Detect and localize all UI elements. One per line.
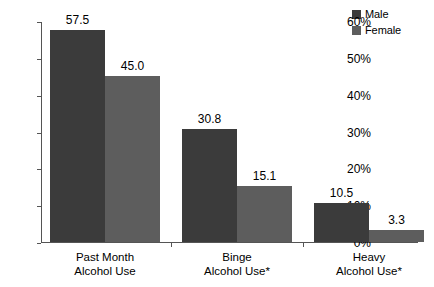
category-label-line: Alcohol Use (50, 264, 160, 278)
y-axis-tick (37, 206, 41, 207)
y-axis-tick-label: 50% (347, 53, 371, 65)
bar-value-label: 45.0 (105, 60, 160, 72)
y-axis-tick (37, 169, 41, 170)
category-label-0: Past MonthAlcohol Use (50, 250, 160, 278)
y-axis-tick-label: 20% (347, 163, 371, 175)
category-label-2: HeavyAlcohol Use* (314, 250, 424, 278)
x-axis-tick (303, 243, 304, 247)
y-axis-tick-label: 40% (347, 90, 371, 102)
bar-value-label: 57.5 (50, 14, 105, 26)
bar-chart: Male Female 60%50%40%30%20%10%0% 57.545.… (0, 0, 434, 287)
bar-value-label: 15.1 (237, 170, 292, 182)
bar-female-2[interactable] (369, 230, 424, 242)
category-label-line: Binge (182, 250, 292, 264)
bar-male-1[interactable] (182, 129, 237, 242)
bar-value-label: 3.3 (369, 214, 424, 226)
x-axis-tick (171, 243, 172, 247)
bar-male-0[interactable] (50, 30, 105, 242)
category-label-line: Alcohol Use* (314, 264, 424, 278)
plot-area: 60%50%40%30%20%10%0% 57.545.030.815.110.… (41, 22, 418, 243)
bar-female-1[interactable] (237, 186, 292, 242)
bar-female-0[interactable] (105, 76, 160, 242)
y-axis-tick (37, 22, 41, 23)
y-axis-tick (37, 96, 41, 97)
category-label-line: Past Month (50, 250, 160, 264)
y-axis-tick-label: 60% (347, 16, 371, 28)
category-label-line: Alcohol Use* (182, 264, 292, 278)
y-axis-tick (37, 59, 41, 60)
y-axis-tick-label: 30% (347, 127, 371, 139)
bar-male-2[interactable] (314, 203, 369, 242)
bar-value-label: 30.8 (182, 113, 237, 125)
y-axis-tick (37, 133, 41, 134)
category-label-1: BingeAlcohol Use* (182, 250, 292, 278)
y-axis-tick (37, 243, 41, 244)
bar-value-label: 10.5 (314, 187, 369, 199)
y-axis-line (41, 22, 42, 243)
category-label-line: Heavy (314, 250, 424, 264)
